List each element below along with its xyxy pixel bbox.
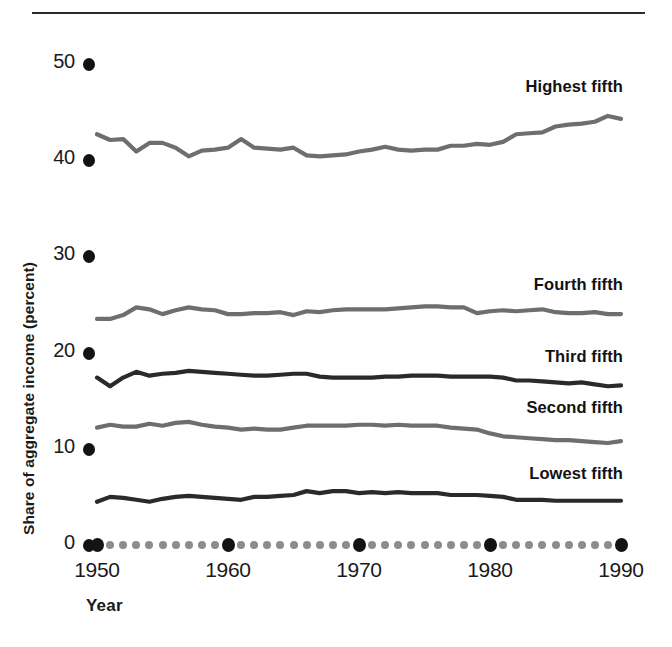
- series-line-highest-fifth: [97, 116, 621, 156]
- x-tick-dot-1955: [159, 541, 167, 549]
- x-tick-dot-1985: [552, 541, 560, 549]
- y-tick-label-20: 20: [35, 339, 75, 362]
- y-tick-label-40: 40: [35, 146, 75, 169]
- x-tick-dot-1970: [353, 538, 366, 552]
- x-tick-dot-1959: [211, 541, 219, 549]
- x-tick-label-1970: 1970: [336, 558, 382, 582]
- x-tick-dot-1987: [578, 541, 586, 549]
- x-tick-dot-1957: [185, 541, 193, 549]
- series-line-fourth-fifth: [97, 306, 621, 319]
- x-tick-dot-1967: [316, 541, 324, 549]
- x-tick-label-1960: 1960: [205, 558, 251, 582]
- x-tick-dot-1980: [484, 538, 497, 552]
- x-tick-dot-1966: [303, 541, 311, 549]
- x-tick-dot-1956: [172, 541, 180, 549]
- x-tick-label-1950: 1950: [74, 558, 120, 582]
- x-tick-dot-1978: [460, 541, 468, 549]
- x-tick-dot-1965: [290, 541, 298, 549]
- x-tick-dot-1986: [565, 541, 573, 549]
- x-tick-dot-1950: [91, 538, 104, 552]
- y-tick-label-0: 0: [35, 531, 75, 554]
- x-tick-label-1980: 1980: [467, 558, 513, 582]
- x-tick-dot-1989: [604, 541, 612, 549]
- x-tick-dot-1977: [447, 541, 455, 549]
- x-tick-dot-1976: [434, 541, 442, 549]
- x-tick-dot-1990: [615, 538, 628, 552]
- series-line-lowest-fifth: [97, 491, 621, 502]
- x-tick-dot-1958: [198, 541, 206, 549]
- x-tick-dot-1968: [329, 541, 337, 549]
- y-tick-label-10: 10: [35, 435, 75, 458]
- x-tick-dot-1975: [421, 541, 429, 549]
- y-tick-label-50: 50: [35, 50, 75, 73]
- y-tick-dot-20: [83, 347, 95, 360]
- y-tick-dot-50: [83, 58, 95, 71]
- x-tick-dot-1969: [342, 541, 350, 549]
- series-line-second-fifth: [97, 422, 621, 443]
- series-label-second-fifth: Second fifth: [526, 398, 623, 417]
- x-tick-label-1990: 1990: [598, 558, 644, 582]
- series-label-fourth-fifth: Fourth fifth: [534, 275, 623, 294]
- x-tick-dot-1979: [473, 541, 481, 549]
- series-line-third-fifth: [97, 371, 621, 386]
- series-label-third-fifth: Third fifth: [545, 347, 623, 366]
- x-tick-dot-1988: [591, 541, 599, 549]
- chart-figure: Share of aggregate income (percent) Year…: [0, 0, 672, 647]
- y-tick-dot-10: [83, 443, 95, 456]
- x-tick-dot-1960: [222, 538, 235, 552]
- y-tick-label-30: 30: [35, 242, 75, 265]
- series-label-lowest-fifth: Lowest fifth: [529, 464, 623, 483]
- series-label-highest-fifth: Highest fifth: [525, 77, 623, 96]
